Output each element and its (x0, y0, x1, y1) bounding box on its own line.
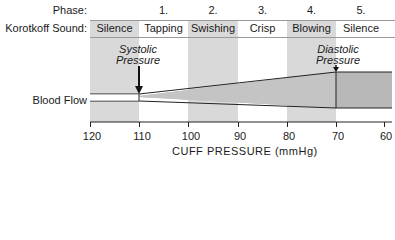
tick-100 (188, 122, 189, 127)
tick-label-70: 70 (323, 130, 353, 142)
tick-90 (238, 122, 239, 127)
tick-label-120: 120 (77, 130, 107, 142)
tick-70 (336, 122, 337, 127)
systolic-arrow-icon (135, 66, 143, 94)
axis-title: CUFF PRESSURE (mmHg) (172, 145, 318, 157)
tick-label-90: 90 (225, 130, 255, 142)
tick-80 (287, 122, 288, 127)
tick-60 (384, 122, 385, 127)
tick-110 (139, 122, 140, 127)
tick-label-60: 60 (371, 130, 395, 142)
tick-120 (90, 122, 91, 127)
tick-label-110: 110 (127, 130, 157, 142)
diastolic-arrow-icon (333, 65, 339, 72)
tick-label-80: 80 (274, 130, 304, 142)
tick-label-100: 100 (176, 130, 206, 142)
